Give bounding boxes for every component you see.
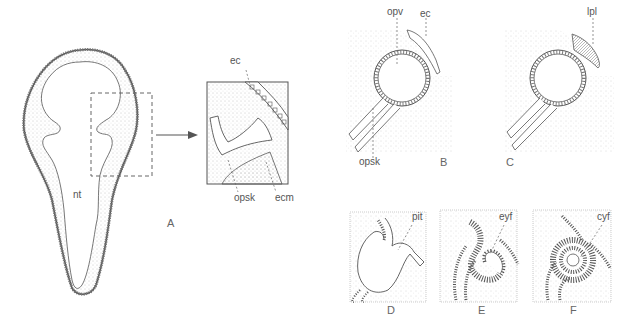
label-nt: nt — [73, 190, 81, 200]
label-eyf: eyf — [499, 212, 512, 222]
eye-cup-drawing-f — [533, 210, 611, 302]
panel-label-b: B — [440, 157, 447, 168]
panel-label-e: E — [478, 305, 485, 316]
inset-enlarged-drawing — [207, 82, 288, 184]
panel-label-f: F — [570, 305, 577, 316]
eye-fold-drawing-e — [440, 210, 518, 302]
label-ec-b: ec — [420, 9, 431, 19]
optic-vesicle-drawing-c — [505, 29, 615, 152]
optic-vesicle-drawing-b — [346, 29, 453, 152]
panel-label-c: C — [506, 157, 514, 168]
panel-label-a: A — [167, 218, 174, 229]
figure-canvas — [0, 0, 635, 326]
arrow-icon — [156, 131, 198, 139]
neural-tube-drawing — [24, 50, 138, 295]
optic-pit-drawing-d — [350, 212, 426, 302]
label-lpl: lpl — [587, 7, 597, 17]
label-pit: pit — [412, 212, 423, 222]
label-cyf: cyf — [597, 212, 610, 222]
label-opv: opv — [387, 7, 403, 17]
label-opsk-inset: opsk — [234, 193, 255, 203]
label-ecm-inset: ecm — [275, 193, 294, 203]
label-opsk-b: opsk — [359, 157, 380, 167]
label-ec-inset: ec — [230, 56, 241, 66]
panel-label-d: D — [387, 305, 395, 316]
